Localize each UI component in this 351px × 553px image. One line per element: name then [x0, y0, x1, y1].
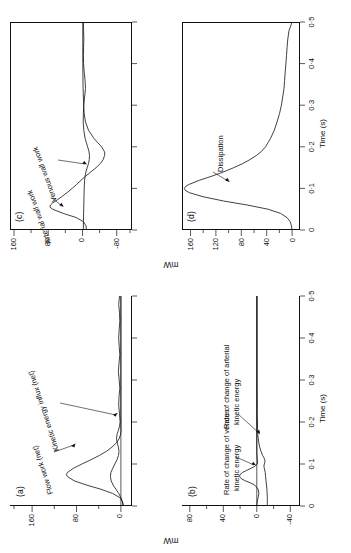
panel-b-label-arterial-line2: kinetic energy: [232, 379, 241, 425]
panel-b-xtick-02: 0·2: [307, 413, 316, 431]
panel-a-ytick-160: 160: [27, 514, 36, 534]
panel-b-ytick-80: 80: [185, 514, 194, 534]
panel-b-xaxis-title: Time (s): [318, 394, 327, 423]
panel-c-graphics: [0, 0, 176, 276]
panel-d-y-ticks: [191, 230, 293, 236]
panel-b: (b): [176, 276, 351, 553]
curve-kinetic-energy-influx-net: [110, 296, 123, 506]
panel-b-xtick-0: 0: [307, 497, 316, 515]
panel-b-label-venous-line2: kinetic energy: [232, 445, 241, 491]
panel-b-label-arterial-line1: Rate of change of arterial: [222, 345, 231, 429]
panel-a-x-ticks: [132, 296, 137, 506]
figure-rotation-wrapper: (a): [0, 0, 351, 553]
panel-d-xtick-04: 0·4: [307, 55, 316, 73]
panel-c-ytick-160: 160: [9, 238, 18, 260]
left-column-yaxis-title: mW: [158, 536, 184, 546]
curve-venous-wall-work: [83, 22, 89, 230]
panel-d-xtick-01: 0·1: [307, 179, 316, 197]
panel-d-ytick-0: 0: [288, 238, 297, 262]
panel-d-ytick-80: 80: [237, 238, 246, 262]
curve-flow-work-net: [66, 296, 123, 506]
panel-c-leader-2: [58, 160, 85, 164]
panel-a-ytick-0: 0: [115, 514, 124, 534]
panel-a-ytick-80: 80: [71, 514, 80, 534]
panel-c-y-ticks: [14, 230, 130, 236]
panel-c-x-ticks: [132, 22, 137, 230]
panel-c-ytick-0: 0: [77, 238, 86, 260]
panel-b-ytick-40: 40: [218, 514, 227, 534]
panel-d-ytick-160: 160: [186, 238, 195, 262]
panel-b-leader-2: [238, 414, 259, 433]
panel-d-xtick-0: 0: [307, 221, 316, 239]
panel-d-label-dissipation: Dissipation: [216, 135, 225, 172]
panel-a-graphics: [0, 276, 176, 553]
panel-b-x-ticks: [300, 296, 305, 506]
panel-d-ytick-120: 120: [211, 238, 220, 262]
panel-d-ytick-40: 40: [262, 238, 271, 262]
panel-d: (d): [176, 0, 351, 276]
curve-dissipation: [184, 22, 292, 230]
panel-a-y-ticks: [14, 506, 121, 512]
panel-c: (c): [0, 0, 176, 276]
curve-rate-arterial-ke: [257, 296, 267, 506]
curve-rate-venous-ke: [240, 296, 259, 506]
four-panel-figure: (a): [0, 0, 351, 553]
panel-b-xtick-05: 0·5: [307, 287, 316, 305]
panel-b-ytick-0: 0: [252, 514, 261, 534]
panel-c-ytick-m80: -80: [112, 238, 121, 264]
panel-d-x-ticks: [300, 22, 305, 230]
panel-b-xtick-03: 0·3: [307, 371, 316, 389]
panel-b-ytick-m40: -40: [285, 514, 294, 538]
panel-a-leader-2: [60, 403, 116, 415]
panel-b-y-ticks: [190, 506, 290, 512]
panel-b-xtick-01: 0·1: [307, 455, 316, 473]
panel-d-xtick-02: 0·2: [307, 138, 316, 156]
panel-d-xtick-05: 0·5: [307, 13, 316, 31]
panel-a: (a): [0, 276, 176, 553]
right-column-yaxis-title: mW: [158, 260, 184, 270]
panel-d-xaxis-title: Time (s): [318, 119, 327, 148]
panel-b-xtick-04: 0·4: [307, 329, 316, 347]
panel-d-xtick-03: 0·3: [307, 96, 316, 114]
